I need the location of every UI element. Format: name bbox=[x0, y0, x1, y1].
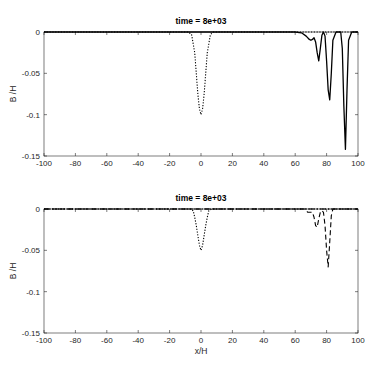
x-tick-label: -40 bbox=[132, 336, 144, 345]
y-tick-label: 0 bbox=[36, 28, 41, 37]
x-tick-label: 60 bbox=[291, 336, 300, 345]
x-tick-label: 100 bbox=[351, 336, 365, 345]
y-tick-label: 0 bbox=[36, 205, 41, 214]
x-tick-label: -20 bbox=[164, 159, 176, 168]
x-tick-label: 80 bbox=[322, 336, 331, 345]
chart-panel-1: -100-80-60-40-200204060801000-0.05-0.1-0… bbox=[8, 16, 365, 168]
axes-box bbox=[44, 209, 358, 333]
y-tick-label: -0.15 bbox=[22, 329, 41, 338]
x-tick-label: -60 bbox=[101, 159, 113, 168]
x-tick-label: 100 bbox=[351, 159, 365, 168]
x-tick-label: 0 bbox=[199, 159, 204, 168]
y-axis-label: B /H bbox=[8, 86, 18, 103]
chart-title: time = 8e+03 bbox=[175, 193, 226, 203]
figure: -100-80-60-40-200204060801000-0.05-0.1-0… bbox=[0, 0, 374, 370]
y-tick-label: -0.1 bbox=[26, 288, 40, 297]
x-tick-label: 40 bbox=[259, 159, 268, 168]
y-axis-label: B /H bbox=[8, 263, 18, 280]
y-tick-label: -0.1 bbox=[26, 111, 40, 120]
x-tick-label: 40 bbox=[259, 336, 268, 345]
x-tick-label: 20 bbox=[228, 159, 237, 168]
x-tick-label: -40 bbox=[132, 159, 144, 168]
x-tick-label: 60 bbox=[291, 159, 300, 168]
y-tick-label: -0.05 bbox=[22, 69, 41, 78]
chart-panel-2: -100-80-60-40-200204060801000-0.05-0.1-0… bbox=[8, 193, 365, 356]
x-tick-label: -80 bbox=[70, 159, 82, 168]
axes-box bbox=[44, 32, 358, 156]
x-tick-label: 0 bbox=[199, 336, 204, 345]
x-tick-label: -20 bbox=[164, 336, 176, 345]
x-tick-label: 80 bbox=[322, 159, 331, 168]
y-tick-label: -0.05 bbox=[22, 246, 41, 255]
y-tick-label: -0.15 bbox=[22, 152, 41, 161]
x-tick-label: -80 bbox=[70, 336, 82, 345]
x-axis-label: x/H bbox=[195, 346, 208, 356]
x-tick-label: 20 bbox=[228, 336, 237, 345]
chart-title: time = 8e+03 bbox=[175, 16, 226, 26]
x-tick-label: -60 bbox=[101, 336, 113, 345]
